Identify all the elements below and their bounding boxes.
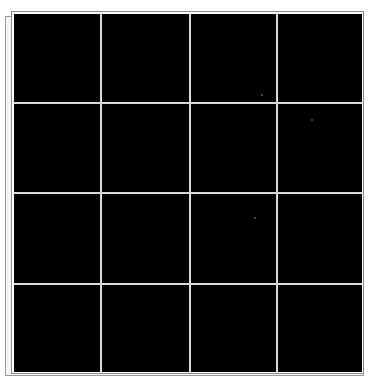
speck — [261, 94, 263, 96]
speck — [311, 119, 313, 121]
grid-line-horizontal-1 — [14, 102, 362, 104]
speck — [254, 217, 256, 219]
grid-line-horizontal-2 — [14, 192, 362, 194]
grid-line-horizontal-3 — [14, 283, 362, 285]
black-grid-panel — [14, 14, 362, 372]
